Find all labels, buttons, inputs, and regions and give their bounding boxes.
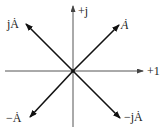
phasor-negjA-arrow xyxy=(73,71,120,118)
origin-point xyxy=(71,69,75,73)
imag-axis-label: +j xyxy=(78,4,88,18)
phasor-jA-label: jȦ xyxy=(6,17,19,31)
phasor-A-label: Ȧ xyxy=(120,18,129,32)
phasor-diagram: +j +1 Ȧ jȦ −Ȧ −jȦ xyxy=(0,0,167,134)
phasor-negjA-label: −jȦ xyxy=(124,110,143,124)
phasor-A-arrow xyxy=(73,25,119,71)
phasor-negA-arrow xyxy=(30,71,73,117)
phasor-negA-label: −Ȧ xyxy=(6,111,22,125)
phasor-jA-arrow xyxy=(26,24,73,71)
real-axis-label: +1 xyxy=(147,64,160,78)
